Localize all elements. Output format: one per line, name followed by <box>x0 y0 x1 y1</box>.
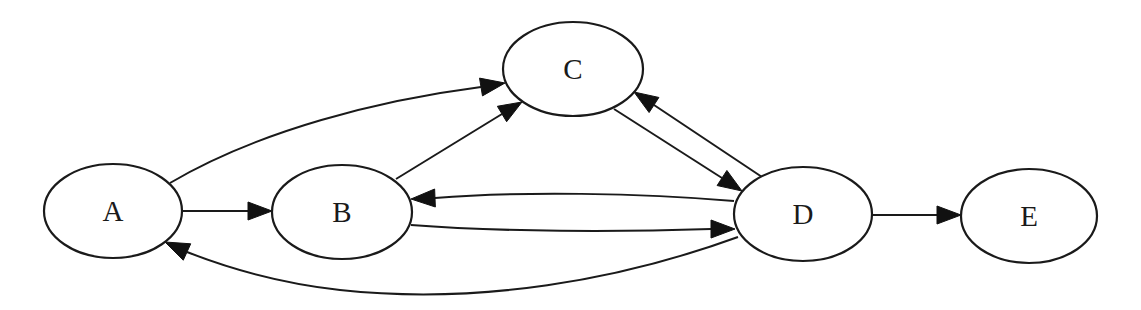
arrowhead-icon <box>480 78 505 96</box>
edge-b-to-c <box>396 102 522 179</box>
node-label: D <box>793 198 814 230</box>
node-c: C <box>503 22 643 116</box>
edge-line <box>654 105 762 177</box>
node-label: A <box>103 195 124 227</box>
node-label: C <box>563 53 582 85</box>
graph-diagram: ABCDE <box>0 0 1141 310</box>
edge-d-to-a <box>165 237 738 294</box>
arrowhead-icon <box>634 92 659 113</box>
arrowhead-icon <box>717 170 742 191</box>
edge-line <box>435 194 734 201</box>
arrowhead-icon <box>165 242 191 260</box>
node-label: E <box>1020 200 1038 232</box>
arrowhead-icon <box>497 102 522 122</box>
node-d: D <box>734 167 872 261</box>
node-a: A <box>44 164 182 258</box>
edge-line <box>396 114 502 179</box>
edge-a-to-b <box>182 202 272 220</box>
nodes: ABCDE <box>44 22 1097 263</box>
node-b: B <box>272 165 412 259</box>
edge-b-to-d <box>411 220 735 238</box>
arrowhead-icon <box>411 189 435 207</box>
edge-line <box>187 237 738 294</box>
arrowhead-icon <box>937 206 961 224</box>
edge-line <box>411 225 711 231</box>
edge-d-to-e <box>872 206 961 224</box>
node-label: B <box>332 196 351 228</box>
edge-line <box>614 109 722 178</box>
node-e: E <box>961 169 1097 263</box>
arrowhead-icon <box>711 220 735 238</box>
edge-d-to-b <box>411 189 734 207</box>
arrowhead-icon <box>248 202 272 220</box>
